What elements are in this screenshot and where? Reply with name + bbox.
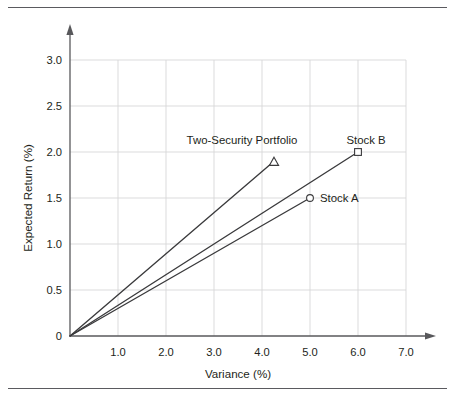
x-tick-label: 1.0: [110, 346, 126, 358]
x-axis-arrow-icon: [425, 332, 436, 339]
y-tick-labels: 0 0.5 1.0 1.5 2.0 2.5 3.0: [46, 54, 62, 342]
y-tick-label: 1.5: [46, 192, 62, 204]
x-tick-label: 3.0: [206, 346, 222, 358]
x-tick-label: 2.0: [158, 346, 174, 358]
x-tick-label: 6.0: [350, 346, 366, 358]
circle-marker: [307, 195, 314, 202]
x-tick-label: 4.0: [254, 346, 270, 358]
series-stock-b: [70, 149, 361, 336]
triangle-marker: [269, 157, 278, 165]
x-axis-title: Variance (%): [205, 367, 271, 380]
x-tick-label: 5.0: [302, 346, 318, 358]
x-tick-labels: 1.0 2.0 3.0 4.0 5.0 6.0 7.0: [110, 346, 414, 358]
y-axis-title: Expected Return (%): [21, 144, 34, 252]
y-tick-label: 0.5: [46, 284, 62, 296]
figure-frame: 0 0.5 1.0 1.5 2.0 2.5 3.0 1.0 2.0 3.0 4.…: [0, 0, 455, 403]
y-tick-label: 3.0: [46, 54, 62, 66]
series-stock-a: [70, 195, 313, 336]
y-tick-label: 1.0: [46, 238, 62, 250]
horizontal-gridlines: [70, 60, 406, 290]
square-marker: [355, 149, 362, 156]
y-tick-label: 2.0: [46, 146, 62, 158]
annotation-stock-b: Stock B: [346, 134, 385, 146]
series-two-security-portfolio: [70, 157, 279, 336]
y-tick-label: 0: [56, 330, 62, 342]
risk-return-chart: 0 0.5 1.0 1.5 2.0 2.5 3.0 1.0 2.0 3.0 4.…: [0, 0, 455, 403]
annotation-stock-a: Stock A: [320, 192, 359, 204]
x-tick-label: 7.0: [398, 346, 414, 358]
y-axis-arrow-icon: [66, 24, 73, 35]
y-tick-label: 2.5: [46, 100, 62, 112]
annotation-two-security-portfolio: Two-Security Portfolio: [187, 134, 298, 146]
